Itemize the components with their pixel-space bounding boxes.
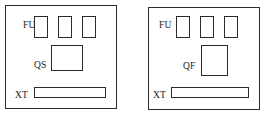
panel-right-terminal-label: XT (153, 91, 166, 101)
panel-left-fuse-2 (58, 16, 72, 38)
panel-left-fuse-3 (82, 16, 96, 38)
panel-right-terminal-bar (171, 87, 249, 98)
panel-right-frame: FU QF XT (148, 7, 260, 110)
panel-right-fuse-3 (224, 16, 238, 38)
diagram-canvas: FU QS XT FU QF XT (0, 0, 265, 120)
panel-left-fuse-1 (34, 16, 48, 38)
panel-right-fuse-1 (176, 16, 190, 38)
panel-right-breaker-box (201, 45, 228, 76)
panel-right-device-label: QF (183, 62, 196, 72)
panel-right-fuse-label: FU (159, 21, 172, 31)
panel-left-device-label: QS (34, 61, 47, 71)
panel-left-terminal-bar (34, 87, 106, 98)
panel-left-terminal-label: XT (15, 91, 28, 101)
panel-left-disconnector-box (51, 45, 83, 71)
panel-left-frame: FU QS XT (5, 5, 117, 109)
panel-right-fuse-2 (200, 16, 214, 38)
